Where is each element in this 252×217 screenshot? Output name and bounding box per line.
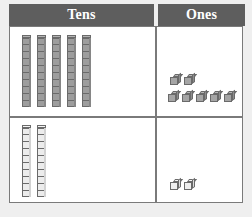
cube-front-face	[184, 182, 192, 190]
tens-rod-block	[22, 35, 31, 107]
ones-unit-cube	[196, 91, 207, 102]
ones-unit-cube	[224, 91, 235, 102]
tens-rod-side-face	[44, 128, 46, 198]
tens-rod-block	[37, 125, 46, 197]
tens-rod-block	[67, 35, 76, 107]
cell-ones-row-2	[156, 117, 244, 204]
cube-front-face	[170, 182, 178, 190]
ones-unit-cube	[182, 91, 193, 102]
chart-grid	[9, 26, 243, 203]
cube-side-face	[178, 177, 181, 188]
tens-rod-side-face	[59, 38, 61, 108]
cube-front-face	[184, 77, 192, 85]
cell-tens-row-2	[10, 117, 155, 204]
cube-side-face	[192, 177, 195, 188]
tens-rod-side-face	[74, 38, 76, 108]
ones-unit-cube	[168, 91, 179, 102]
cube-side-face	[190, 89, 193, 100]
cube-side-face	[232, 89, 235, 100]
cube-side-face	[218, 89, 221, 100]
tens-rod-block	[82, 35, 91, 107]
cube-side-face	[192, 72, 195, 83]
ones-unit-cube	[210, 91, 221, 102]
column-header-tens: Tens	[9, 4, 154, 26]
ones-unit-cube	[170, 179, 181, 190]
cube-front-face	[170, 77, 178, 85]
ones-unit-cube	[170, 74, 181, 85]
cell-ones-row-1	[156, 27, 244, 116]
cube-front-face	[224, 94, 232, 102]
cube-side-face	[176, 89, 179, 100]
tens-rod-block	[37, 35, 46, 107]
cube-side-face	[204, 89, 207, 100]
tens-rod-side-face	[29, 38, 31, 108]
tens-rod-side-face	[89, 38, 91, 108]
cube-side-face	[178, 72, 181, 83]
tens-rod-block	[52, 35, 61, 107]
chart-header-row: Tens Ones	[9, 4, 245, 26]
tens-rod-block	[22, 125, 31, 197]
cube-front-face	[168, 94, 176, 102]
cube-front-face	[210, 94, 218, 102]
cell-tens-row-1	[10, 27, 155, 116]
ones-unit-cube	[184, 179, 195, 190]
ones-unit-cube	[184, 74, 195, 85]
tens-rod-side-face	[44, 38, 46, 108]
tens-rod-side-face	[29, 128, 31, 198]
column-header-ones: Ones	[158, 4, 245, 26]
cube-front-face	[196, 94, 204, 102]
place-value-chart: Tens Ones	[9, 4, 245, 205]
cube-front-face	[182, 94, 190, 102]
